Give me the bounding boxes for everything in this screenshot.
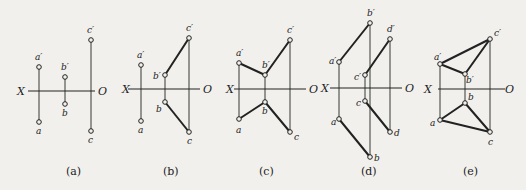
point-label: a′ — [434, 52, 441, 62]
projection-diagrams: XOa′ab′bc′c(a)XOa′ab′bc′c(b)XOa′ab′bc′c(… — [0, 0, 526, 190]
point-marker-icon — [139, 63, 144, 68]
panel-caption: (d) — [361, 165, 377, 178]
point-label: a′ — [236, 48, 243, 58]
point-label: b′ — [367, 8, 375, 18]
edge-line — [440, 64, 465, 74]
point-marker-icon — [89, 129, 94, 134]
point-label: a — [331, 117, 336, 127]
point-label: a′ — [137, 50, 144, 60]
point-label: a′ — [35, 52, 42, 62]
point-label: c′ — [87, 25, 94, 35]
point-label: d — [394, 128, 400, 138]
point-marker-icon — [463, 101, 468, 106]
point-marker-icon — [438, 62, 443, 67]
axis-x-label: X — [16, 85, 26, 98]
panel-b: XOa′ab′bc′c(b) — [121, 23, 212, 178]
point-label: c — [294, 132, 299, 142]
point-label: a — [138, 125, 143, 135]
point-marker-icon — [163, 100, 168, 105]
point-marker-icon — [488, 130, 493, 135]
point-marker-icon — [63, 75, 68, 80]
point-marker-icon — [363, 73, 368, 78]
edge-line — [165, 38, 189, 75]
panel-caption: (b) — [163, 165, 179, 178]
point-marker-icon — [337, 117, 342, 122]
point-label: b — [156, 104, 162, 114]
point-marker-icon — [37, 65, 42, 70]
point-label: b′ — [466, 75, 474, 85]
edge-line — [440, 39, 490, 64]
point-marker-icon — [288, 38, 293, 43]
point-label: b — [262, 106, 268, 116]
point-label: a — [36, 126, 41, 136]
point-label: c — [187, 136, 192, 146]
point-marker-icon — [368, 21, 373, 26]
axis-o-label: O — [309, 83, 318, 96]
point-marker-icon — [237, 117, 242, 122]
point-label: b — [468, 92, 474, 102]
panel-c: XOa′ab′bc′c(c) — [225, 25, 318, 178]
point-label: a′ — [329, 56, 336, 66]
point-marker-icon — [63, 102, 68, 107]
point-marker-icon — [368, 155, 373, 160]
axis-x-label: X — [423, 83, 433, 96]
axis-o-label: O — [405, 82, 414, 95]
point-label: c′ — [287, 25, 294, 35]
axis-x-label: X — [225, 83, 235, 96]
point-marker-icon — [237, 61, 242, 66]
point-label: a — [430, 118, 435, 128]
point-label: c — [88, 135, 93, 145]
axis-o-label: O — [203, 83, 212, 96]
point-marker-icon — [263, 73, 268, 78]
point-label: b′ — [61, 62, 69, 72]
point-marker-icon — [139, 119, 144, 124]
point-marker-icon — [163, 73, 168, 78]
point-marker-icon — [363, 99, 368, 104]
panel-e: XOa′ab′bc′c(e) — [423, 28, 514, 178]
point-marker-icon — [89, 38, 94, 43]
panel-caption: (a) — [66, 165, 81, 178]
axis-x-label: X — [121, 83, 131, 96]
point-marker-icon — [337, 60, 342, 65]
panel-caption: (e) — [463, 165, 478, 178]
point-marker-icon — [438, 118, 443, 123]
point-label: b′ — [153, 71, 161, 81]
edge-line — [339, 23, 370, 62]
edge-line — [365, 39, 390, 75]
point-marker-icon — [288, 130, 293, 135]
point-label: a — [236, 125, 241, 135]
axis-o-label: O — [98, 85, 107, 98]
point-marker-icon — [263, 100, 268, 105]
point-marker-icon — [388, 37, 393, 42]
edge-line — [165, 102, 189, 132]
point-marker-icon — [388, 130, 393, 135]
point-label: c′ — [354, 72, 361, 82]
panel-d: XOa′ab′bc′cd′d(d) — [320, 8, 414, 178]
point-label: d′ — [387, 24, 395, 34]
point-marker-icon — [187, 130, 192, 135]
point-label: b — [374, 153, 380, 163]
edge-line — [265, 102, 290, 132]
point-marker-icon — [37, 120, 42, 125]
point-label: c′ — [186, 23, 193, 33]
point-marker-icon — [187, 36, 192, 41]
edge-line — [440, 103, 465, 120]
panel-caption: (c) — [259, 165, 274, 178]
point-label: b′ — [262, 60, 270, 70]
point-label: c — [488, 137, 493, 147]
panel-a: XOa′ab′bc′c(a) — [16, 25, 107, 178]
edge-line — [339, 119, 370, 157]
point-label: b — [62, 108, 68, 118]
edge-line — [365, 101, 390, 132]
point-marker-icon — [488, 37, 493, 42]
point-label: c — [356, 98, 361, 108]
axis-o-label: O — [505, 83, 514, 96]
axis-x-label: X — [320, 82, 330, 95]
point-label: c′ — [494, 28, 501, 38]
